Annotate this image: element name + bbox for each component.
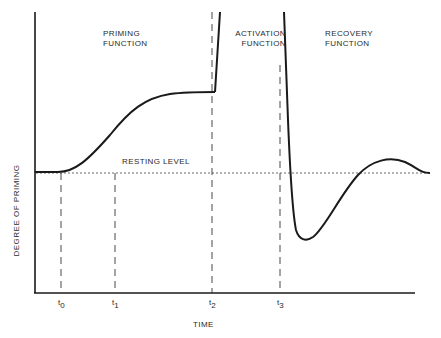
recovery-label-line1: RECOVERY [325, 29, 373, 39]
t0-label: t0 [58, 298, 65, 310]
x-axis-label: TIME [193, 320, 214, 330]
y-axis-label: DEGREE OF PRIMING [12, 161, 21, 261]
priming-label-line1: PRIMING [103, 29, 148, 39]
priming-diagram [0, 0, 441, 338]
recovery-function-label: RECOVERY FUNCTION [325, 29, 373, 49]
priming-function-label: PRIMING FUNCTION [103, 29, 148, 49]
resting-level-label: RESTING LEVEL [122, 157, 190, 167]
activation-function-label: ACTIVATION FUNCTION [229, 29, 286, 49]
t1-label: t1 [112, 298, 119, 310]
t3-label: t3 [277, 298, 284, 310]
activation-curve [215, 12, 220, 92]
activation-label-line2: FUNCTION [229, 39, 286, 49]
activation-label-line1: ACTIVATION [229, 29, 286, 39]
t2-label: t2 [209, 298, 216, 310]
priming-label-line2: FUNCTION [103, 39, 148, 49]
recovery-label-line2: FUNCTION [325, 39, 373, 49]
